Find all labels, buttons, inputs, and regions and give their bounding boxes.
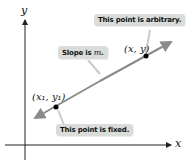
arbitrary-point xyxy=(144,54,149,59)
y-axis-label: y xyxy=(21,4,27,17)
fixed-point-label: (x₁, y₁) xyxy=(32,91,65,102)
pointer-slope xyxy=(88,60,100,74)
callout-slope-prefix: Slope is xyxy=(62,49,94,57)
callout-fixed: This point is fixed. xyxy=(56,124,133,136)
callout-arbitrary: This point is arbitrary. xyxy=(94,14,185,26)
callout-slope: Slope is m. xyxy=(58,46,108,59)
fixed-point xyxy=(54,105,59,110)
slope-diagram: y x (x₁, y₁) (x, y) This point is arbitr… xyxy=(0,0,191,165)
pointer-fixed xyxy=(58,110,64,125)
arbitrary-point-label: (x, y) xyxy=(124,43,149,54)
callout-slope-suffix: . xyxy=(101,49,103,57)
callout-slope-var: m xyxy=(94,48,101,57)
x-axis-label: x xyxy=(175,137,181,150)
